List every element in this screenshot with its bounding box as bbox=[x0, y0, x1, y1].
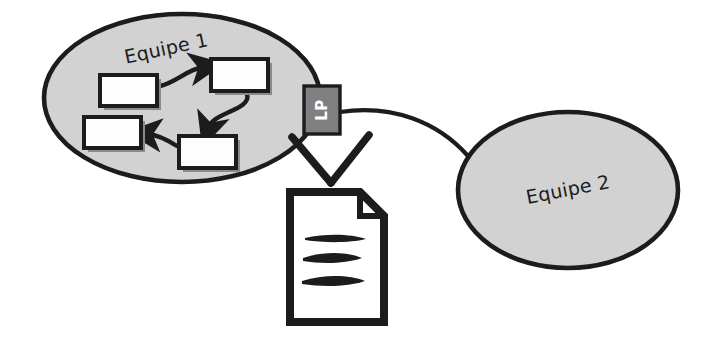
process-box-3[interactable] bbox=[84, 117, 145, 152]
process-box-3-shape bbox=[84, 117, 141, 148]
process-box-1-shape bbox=[100, 75, 157, 106]
document-icon[interactable] bbox=[290, 192, 384, 322]
lp-gateway-label: LP bbox=[313, 99, 331, 121]
process-box-1[interactable] bbox=[100, 75, 161, 110]
diagram-svg: Equipe 2 Equipe 1 bbox=[0, 0, 714, 348]
process-box-2[interactable] bbox=[211, 59, 272, 95]
diagram-canvas: Equipe 2 Equipe 1 bbox=[0, 0, 714, 348]
process-box-4[interactable] bbox=[179, 136, 240, 172]
process-box-4-shape bbox=[179, 136, 236, 168]
process-box-2-shape bbox=[211, 59, 268, 91]
group-equipe-2[interactable]: Equipe 2 bbox=[458, 112, 678, 268]
lp-gateway[interactable]: LP bbox=[304, 86, 340, 134]
down-chevron-icon bbox=[292, 135, 369, 183]
